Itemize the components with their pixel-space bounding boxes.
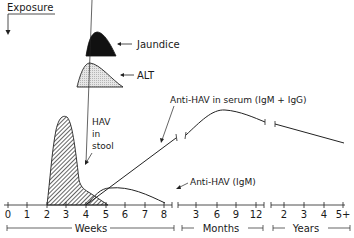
tick-month-12: 12 xyxy=(250,209,263,220)
alt-swatch xyxy=(77,63,123,87)
arrow-icon xyxy=(160,138,164,143)
hav-stool-label-2: in xyxy=(92,129,100,139)
arrow-icon xyxy=(120,73,124,77)
tick-year-5plus: 5+ xyxy=(336,209,351,220)
months-label: Months xyxy=(203,223,240,234)
tick-week-2: 2 xyxy=(44,209,50,220)
tick-week-5: 5 xyxy=(103,209,109,220)
jaundice-label: Jaundice xyxy=(136,39,180,50)
hav-stool-label-3: stool xyxy=(92,141,114,151)
exposure-marker: Exposure xyxy=(6,2,56,35)
anti-hav-igm-label: Anti-HAV (IgM) xyxy=(190,177,256,187)
tick-month-6: 6 xyxy=(214,209,220,220)
tick-month-3: 3 xyxy=(193,209,199,220)
tick-month-9: 9 xyxy=(233,209,239,220)
alt-label: ALT xyxy=(137,70,155,81)
tick-week-1: 1 xyxy=(24,209,30,220)
tick-week-6: 6 xyxy=(122,209,128,220)
tick-week-4: 4 xyxy=(83,209,89,220)
anti-hav-total-label: Anti-HAV in serum (IgM + IgG) xyxy=(170,95,307,105)
x-axis: 0 1 2 3 4 5 6 7 8 3 6 9 12 2 3 4 5+ xyxy=(4,202,350,234)
tick-year-4: 4 xyxy=(321,209,327,220)
weeks-label: Weeks xyxy=(75,223,108,234)
tick-week-3: 3 xyxy=(63,209,69,220)
hepatitis-a-course-diagram: Exposure Jaundice ALT HAV in stool Anti-… xyxy=(0,0,354,238)
tick-year-2: 2 xyxy=(281,209,287,220)
jaundice-legend: Jaundice xyxy=(86,32,180,56)
tick-week-8: 8 xyxy=(161,209,167,220)
tick-week-0: 0 xyxy=(5,209,11,220)
tick-week-7: 7 xyxy=(142,209,148,220)
exposure-arrow-icon xyxy=(6,30,11,35)
years-label: Years xyxy=(292,223,319,234)
hav-stool-curve: HAV in stool xyxy=(47,0,114,205)
arrow-icon xyxy=(117,42,121,46)
tick-year-3: 3 xyxy=(301,209,307,220)
arrow-icon xyxy=(176,185,181,189)
exposure-arrow-line xyxy=(8,14,55,33)
hav-stool-label-1: HAV xyxy=(92,117,111,127)
exposure-label: Exposure xyxy=(7,2,53,13)
anti-hav-igm-curve: Anti-HAV (IgM) xyxy=(86,177,256,205)
